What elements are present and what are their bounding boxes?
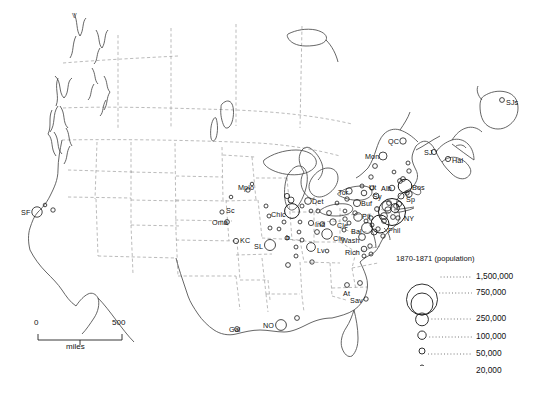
city-circle <box>381 234 385 238</box>
legend-value: 250,000 <box>476 313 506 323</box>
city-circle <box>233 238 238 243</box>
city-circle <box>282 220 286 224</box>
city-circle <box>353 199 360 206</box>
city-label: Det <box>312 198 324 205</box>
city-circle <box>445 156 450 161</box>
city-circle <box>369 252 373 256</box>
city-circle <box>364 297 368 301</box>
city-circle <box>325 249 329 253</box>
city-label: Sav <box>350 297 363 304</box>
legend: 1870-1871 (population) 1,500,000750,0002… <box>396 254 542 364</box>
city-label: Phil <box>388 227 400 234</box>
city-circle <box>345 197 349 201</box>
city-label: SJs <box>506 99 518 106</box>
city-circle <box>354 213 362 221</box>
city-label: Pit <box>362 213 371 220</box>
city-label: At <box>343 290 350 297</box>
city-label: KC <box>240 237 250 244</box>
city-label: Ut <box>369 184 376 191</box>
city-label: Mplo <box>238 184 254 191</box>
city-circle <box>277 227 281 231</box>
city-circle <box>361 190 367 196</box>
legend-value: 750,000 <box>476 287 506 297</box>
city-circle <box>276 320 287 331</box>
scale-min-label: 0 <box>34 318 38 327</box>
city-circle <box>330 219 336 225</box>
city-circle <box>229 195 233 199</box>
city-label: Chic <box>271 211 286 218</box>
city-circle <box>373 164 378 169</box>
city-circle <box>368 244 372 248</box>
city-circle <box>343 209 347 213</box>
population-map: SFScOmaKCSLMploChicDetIndCleCinLvbPitBuf… <box>0 0 545 395</box>
city-label: Mon <box>365 153 379 160</box>
city-circle <box>345 283 350 288</box>
city-label: Buf <box>361 200 372 207</box>
legend-circle <box>418 331 426 339</box>
city-circle <box>298 220 302 224</box>
city-circle <box>398 193 404 199</box>
city-label: Wash <box>341 237 360 244</box>
legend-value: 50,000 <box>476 348 502 358</box>
city-label: Gal <box>229 326 241 333</box>
city-circle <box>361 246 367 252</box>
city-label: SL <box>254 243 263 250</box>
city-circle <box>407 169 411 173</box>
city-label: Cle <box>337 222 348 229</box>
city-circle <box>305 198 312 205</box>
city-label: NO <box>263 322 274 329</box>
city-circle <box>307 243 316 252</box>
city-circle <box>220 210 224 214</box>
city-circle <box>392 170 396 174</box>
legend-symbol-stack <box>396 266 542 366</box>
legend-circle <box>407 284 438 315</box>
city-circle <box>309 209 313 213</box>
city-circle <box>391 215 396 220</box>
city-circle <box>300 238 304 242</box>
city-circle <box>396 216 400 220</box>
city-circle <box>360 184 364 188</box>
city-circle <box>322 229 332 239</box>
city-label: Ind <box>315 221 325 228</box>
city-circle <box>297 230 301 234</box>
city-circle <box>43 203 47 207</box>
city-label: Tor <box>338 189 348 196</box>
legend-circle <box>419 348 425 354</box>
city-circle <box>294 245 298 249</box>
city-circle <box>379 152 387 160</box>
city-circle <box>295 316 300 321</box>
scale-unit-label: miles <box>66 342 85 351</box>
corner-marker-v: V <box>72 12 77 19</box>
city-circle <box>285 204 300 219</box>
city-circle <box>300 204 304 208</box>
city-label: Alb <box>381 185 392 192</box>
city-label: Oma <box>212 219 228 226</box>
city-circle <box>51 208 55 212</box>
city-circle <box>294 254 298 258</box>
city-circle <box>369 175 373 179</box>
city-label: SF <box>21 209 30 216</box>
city-circle <box>316 209 320 213</box>
city-label: QC <box>388 138 399 145</box>
city-label: Sp <box>406 196 415 203</box>
city-circle <box>310 260 314 264</box>
city-label: NY <box>404 215 414 222</box>
city-circle <box>500 98 505 103</box>
city-circle <box>264 204 268 208</box>
city-circle <box>358 281 363 286</box>
legend-title: 1870-1871 (population) <box>396 254 475 263</box>
city-circle <box>362 254 366 258</box>
city-circle <box>406 161 410 165</box>
city-label: Bal <box>351 228 362 235</box>
city-label: SJ <box>424 149 433 156</box>
scale-bar: 0 500 miles <box>30 318 140 358</box>
legend-circle <box>420 365 424 366</box>
city-label: b <box>286 234 290 241</box>
city-circle <box>376 227 380 231</box>
city-label: Sy <box>373 193 382 200</box>
city-circle <box>315 230 320 235</box>
legend-value: 20,000 <box>476 365 502 375</box>
scale-max-label: 500 <box>112 318 125 327</box>
city-label: Rich <box>345 249 360 256</box>
city-label: Lv <box>317 247 325 254</box>
